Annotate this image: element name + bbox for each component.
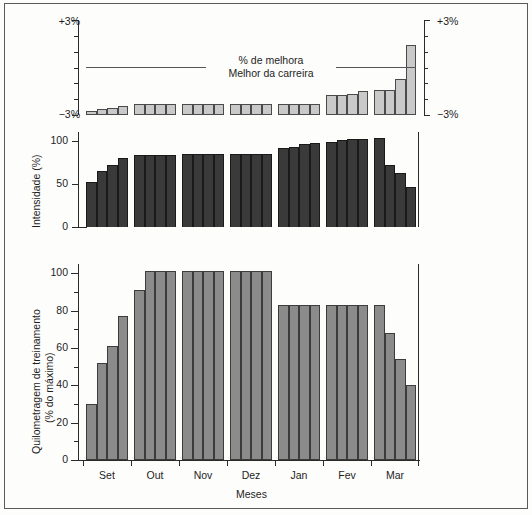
intensity-bar (326, 142, 337, 227)
improvement-bar (145, 104, 156, 115)
intensity-bar (107, 165, 118, 227)
mileage-bar (358, 305, 369, 460)
mileage-ytick-label: 0 (28, 453, 68, 465)
improvement-bar (299, 104, 310, 115)
improvement-bar (278, 104, 289, 115)
month-label-nov: Nov (182, 469, 224, 481)
mileage-ytick-label: 20 (28, 416, 68, 428)
intensity-bar (214, 154, 225, 227)
intensity-bar (299, 144, 310, 227)
mileage-bar (278, 305, 289, 460)
improvement-bar (166, 104, 177, 115)
improvement-bar (203, 104, 214, 115)
intensity-bar (406, 187, 417, 227)
month-label-jan: Jan (278, 469, 320, 481)
intensity-bar (385, 165, 396, 227)
intensity-bar (193, 154, 204, 227)
mileage-bar (385, 333, 396, 460)
intensity-bar (337, 140, 348, 227)
mileage-ytick-label: 80 (28, 304, 68, 316)
intensity-plot-area (86, 132, 416, 227)
improvement-bar (347, 94, 358, 115)
improvement-bar (395, 79, 406, 115)
improvement-bar (155, 104, 166, 115)
mileage-bar (241, 271, 252, 460)
improvement-bar (86, 111, 97, 115)
mileage-bar (214, 271, 225, 460)
mileage-bar (326, 305, 337, 460)
improvement-bar (118, 106, 129, 116)
mileage-bar (289, 305, 300, 460)
mileage-bar (118, 316, 129, 460)
chart-mileage: Quilometragem de treinamento (% do máxim… (0, 248, 532, 508)
mileage-bar (299, 305, 310, 460)
improvement-bar (326, 95, 337, 115)
mileage-ytick-label: 40 (28, 378, 68, 390)
improvement-bar (134, 104, 145, 115)
mileage-bar (182, 271, 193, 460)
improvement-bar (374, 90, 385, 115)
improvement-ytick-bottom-right: −3% (437, 108, 477, 120)
intensity-bar (289, 147, 300, 227)
improvement-bar (230, 104, 241, 115)
improvement-bar (262, 104, 273, 115)
improvement-ytick-bottom-left: −3% (40, 108, 80, 120)
improvement-annotation: % de melhora Melhor da carreira (206, 53, 336, 81)
improvement-bar (97, 109, 108, 115)
mileage-bar (374, 305, 385, 460)
intensity-bar (347, 139, 358, 227)
improvement-bar (251, 104, 262, 115)
intensity-bar (358, 139, 369, 227)
mileage-bar (193, 271, 204, 460)
mileage-bar (230, 271, 241, 460)
intensity-bar (155, 155, 166, 227)
mileage-ytick-label: 60 (28, 341, 68, 353)
intensity-bar (97, 171, 108, 227)
intensity-bar (241, 154, 252, 227)
intensity-bar (374, 138, 385, 227)
improvement-bar (107, 108, 118, 115)
mileage-bar (155, 271, 166, 460)
improvement-bar (385, 90, 396, 115)
improvement-bar (182, 104, 193, 115)
mileage-bar (203, 271, 214, 460)
month-tick (275, 460, 276, 466)
mileage-bar (145, 271, 156, 460)
intensity-bar (118, 158, 129, 227)
improvement-bar (406, 45, 417, 115)
improvement-ytick-top-right: +3% (437, 15, 477, 27)
improvement-bar (241, 104, 252, 115)
mileage-bar (347, 305, 358, 460)
intensity-ytick-label: 100 (28, 134, 68, 146)
mileage-bar (166, 271, 177, 460)
month-tick (131, 460, 132, 466)
intensity-bar (182, 154, 193, 227)
improvement-bar (289, 104, 300, 115)
improvement-bar (193, 104, 204, 115)
month-label-dez: Dez (230, 469, 272, 481)
improvement-bar (358, 91, 369, 115)
mileage-bar (262, 271, 273, 460)
improvement-bar (310, 104, 321, 115)
xaxis-title: Meses (236, 488, 267, 500)
month-tick (323, 460, 324, 466)
mileage-bar (107, 346, 118, 460)
intensity-bar (145, 155, 156, 227)
chart-intensity: Intensidade (%) 050100 (0, 120, 532, 242)
mileage-bar (86, 404, 97, 460)
mileage-bar (251, 271, 262, 460)
improvement-annotation-line1: % de melhora (210, 54, 332, 67)
month-label-set: Set (86, 469, 128, 481)
mileage-bar (97, 363, 108, 460)
month-tick (371, 460, 372, 466)
intensity-bar (134, 155, 145, 227)
improvement-bar (214, 104, 225, 115)
month-tick (418, 460, 419, 466)
intensity-bar (278, 148, 289, 227)
intensity-bar (203, 154, 214, 227)
mileage-plot-area (86, 264, 416, 460)
intensity-bar (86, 182, 97, 227)
intensity-bar (395, 173, 406, 227)
month-label-fev: Fev (326, 469, 368, 481)
month-tick (179, 460, 180, 466)
